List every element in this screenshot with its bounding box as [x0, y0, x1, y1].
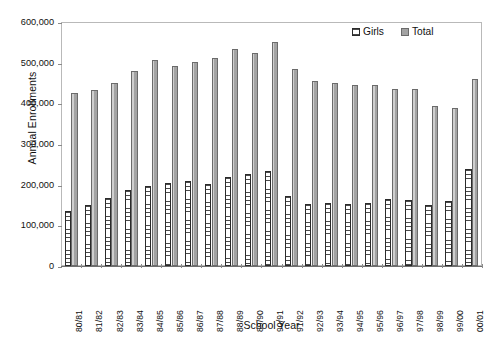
bar-highlight: [233, 50, 235, 265]
x-axis-tick-mark: [402, 264, 403, 268]
bar-girls: [425, 205, 431, 266]
bar-group: [382, 22, 402, 266]
bar-total: [372, 85, 378, 266]
x-axis-tick-mark: [241, 264, 242, 268]
x-axis-line: [61, 266, 483, 267]
bar-group: [101, 22, 121, 266]
y-axis-tick-label: 400,000: [21, 98, 54, 108]
x-axis-tick-mark: [322, 264, 323, 268]
y-axis-tick-label: 0: [49, 261, 54, 271]
bar-girls: [245, 174, 251, 266]
bar-girls: [345, 204, 351, 266]
bar-total: [232, 49, 238, 266]
bar-group: [362, 22, 382, 266]
bar-group: [221, 22, 241, 266]
bars-layer: [61, 22, 482, 266]
bar-total: [432, 106, 438, 266]
x-axis-tick-mark: [302, 264, 303, 268]
legend-label: Total: [412, 26, 434, 37]
bar-girls: [445, 201, 451, 266]
bar-girls: [225, 177, 231, 266]
bar-highlight: [193, 63, 195, 265]
bar-highlight: [353, 86, 355, 265]
y-axis-tick-label: 500,000: [21, 58, 54, 68]
bar-highlight: [112, 84, 114, 265]
chart-legend: GirlsTotal: [352, 26, 433, 37]
bar-girls: [285, 196, 291, 266]
x-axis-tick-mark: [121, 264, 122, 268]
bar-total: [152, 60, 158, 266]
x-axis-title: School Year: [61, 319, 482, 331]
bar-total: [392, 89, 398, 266]
bar-girls: [125, 190, 131, 266]
bar-girls: [145, 186, 151, 266]
bar-total: [71, 93, 77, 266]
bar-group: [402, 22, 422, 266]
bar-group: [422, 22, 442, 266]
bar-highlight: [473, 80, 475, 265]
bar-highlight: [413, 90, 415, 265]
bar-highlight: [153, 61, 155, 265]
bar-group: [342, 22, 362, 266]
bar-highlight: [72, 94, 74, 265]
bar-girls: [165, 183, 171, 266]
legend-entry[interactable]: Girls: [352, 26, 384, 37]
bar-total: [292, 69, 298, 266]
bar-total: [111, 83, 117, 266]
x-axis-tick-mark: [462, 264, 463, 268]
bar-girls: [185, 181, 191, 266]
x-axis-tick-labels: 80/8181/8282/8383/8484/8585/8686/8787/88…: [61, 268, 482, 314]
bar-highlight: [333, 84, 335, 265]
total-swatch-icon: [401, 28, 409, 36]
bar-total: [192, 62, 198, 266]
bar-total: [172, 66, 178, 266]
bar-highlight: [313, 82, 315, 265]
x-axis-tick-mark: [161, 264, 162, 268]
bar-group: [282, 22, 302, 266]
bar-group: [141, 22, 161, 266]
x-axis-tick-mark: [261, 264, 262, 268]
x-axis-tick-mark: [81, 264, 82, 268]
girls-swatch-icon: [352, 28, 360, 36]
bar-girls: [305, 204, 311, 266]
bar-highlight: [173, 67, 175, 265]
bar-girls: [105, 198, 111, 266]
x-axis-tick-mark: [382, 264, 383, 268]
bar-highlight: [393, 90, 395, 265]
x-axis-tick-mark: [482, 264, 483, 268]
bar-girls: [465, 169, 471, 266]
bar-group: [61, 22, 81, 266]
x-axis-tick-mark: [362, 264, 363, 268]
bar-group: [161, 22, 181, 266]
x-axis-tick-mark: [422, 264, 423, 268]
bar-total: [452, 108, 458, 266]
bar-total: [272, 42, 278, 266]
legend-entry[interactable]: Total: [401, 26, 434, 37]
bar-group: [442, 22, 462, 266]
bar-highlight: [92, 91, 94, 265]
bar-total: [312, 81, 318, 266]
bar-total: [91, 90, 97, 266]
y-axis-tick-labels: 600,000500,000400,000300,000200,000100,0…: [0, 0, 58, 343]
bar-highlight: [453, 109, 455, 265]
x-axis-tick-mark: [101, 264, 102, 268]
bar-group: [302, 22, 322, 266]
bar-girls: [405, 200, 411, 266]
x-axis-tick-mark: [442, 264, 443, 268]
y-axis-tick-label: 300,000: [21, 139, 54, 149]
bar-highlight: [433, 107, 435, 265]
legend-label: Girls: [363, 26, 384, 37]
bar-highlight: [273, 43, 275, 265]
bar-total: [352, 85, 358, 266]
bar-total: [212, 58, 218, 266]
bar-highlight: [293, 70, 295, 265]
bar-total: [252, 53, 258, 267]
enrollment-bar-chart: Annual Enrollments 600,000500,000400,000…: [0, 0, 490, 343]
x-axis-tick-mark: [141, 264, 142, 268]
bar-highlight: [213, 59, 215, 265]
bar-girls: [385, 199, 391, 266]
bar-group: [121, 22, 141, 266]
bar-group: [322, 22, 342, 266]
bar-girls: [65, 211, 71, 266]
bar-group: [462, 22, 482, 266]
